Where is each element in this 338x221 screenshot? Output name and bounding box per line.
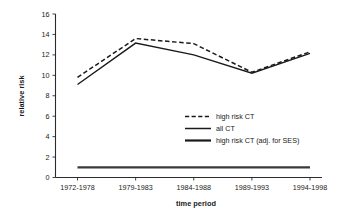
x-tick-label: 1994-1998: [293, 183, 327, 192]
legend-label-all-ct: all CT: [216, 124, 235, 133]
y-tick-label: 6: [46, 112, 50, 121]
y-tick-label: 4: [46, 132, 50, 141]
legend-label-high-risk-ct: high risk CT: [216, 112, 255, 121]
line-chart: 0246810121416 1972-19781979-19831984-198…: [0, 0, 338, 221]
x-tick-label: 1989-1993: [235, 183, 269, 192]
y-tick-label: 12: [42, 50, 50, 59]
y-tick-label: 14: [42, 30, 50, 39]
chart-legend: high risk CT all CT high risk CT (adj. f…: [185, 112, 299, 145]
chart-figure: 0246810121416 1972-19781979-19831984-198…: [0, 0, 338, 221]
y-tick-label: 16: [42, 10, 50, 19]
legend-label-high-risk-ct-adj-ses: high risk CT (adj. for SES): [216, 136, 299, 145]
legend-entry-all-ct: all CT: [185, 124, 235, 133]
y-tick-label: 8: [46, 91, 50, 100]
legend-entry-high-risk-ct: high risk CT: [185, 112, 255, 121]
x-tick-label: 1979-1983: [118, 183, 152, 192]
x-tick-label: 1972-1978: [60, 183, 94, 192]
y-tick-label: 2: [46, 153, 50, 162]
y-tick-label: 10: [42, 71, 50, 80]
series-line-high-risk-ct: [78, 39, 311, 78]
legend-entry-high-risk-ct-adj-ses: high risk CT (adj. for SES): [185, 136, 299, 145]
y-tick-label: 0: [46, 173, 50, 182]
y-axis-title: relative risk: [17, 75, 26, 117]
x-axis-title: time period: [176, 199, 216, 208]
y-axis-tick-labels: 0246810121416: [42, 10, 50, 183]
series-line-all-ct: [78, 43, 311, 84]
x-axis-tick-labels: 1972-19781979-19831984-19881989-19931994…: [60, 183, 327, 192]
x-tick-label: 1984-1988: [177, 183, 211, 192]
